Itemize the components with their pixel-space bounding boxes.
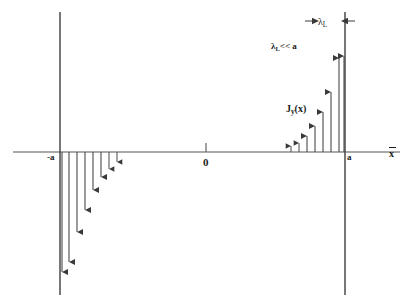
lambda-subscript-L: L xyxy=(323,21,327,29)
axis-label-a: a xyxy=(347,153,352,162)
axis-label-origin: 0 xyxy=(203,157,209,168)
axis-label-minus-a: -a xyxy=(47,153,55,162)
penetration-depth-indicator xyxy=(305,18,355,24)
current-density-label: Jy(x) xyxy=(286,104,306,116)
axis-label-x: x xyxy=(389,147,396,159)
current-argument: (x) xyxy=(295,103,307,114)
penetration-depth-label: λL xyxy=(318,17,327,29)
condition-relation: << a xyxy=(280,41,297,51)
condition-label: λL<< a xyxy=(271,42,297,52)
figure-canvas: -a a 0 x λL λL<< a Jy(x) xyxy=(0,0,409,306)
current-arrows-negative xyxy=(62,152,117,272)
